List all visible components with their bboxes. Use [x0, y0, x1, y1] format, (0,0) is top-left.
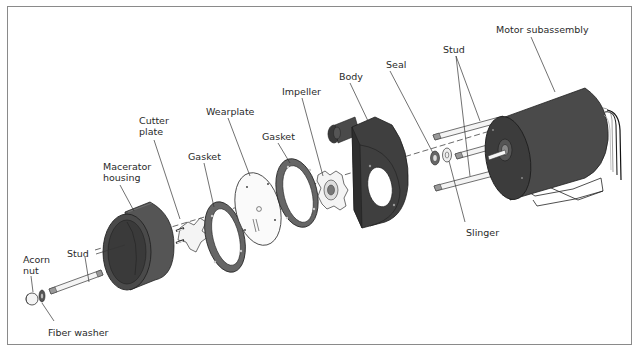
label-body: Body — [339, 71, 363, 82]
seal-part — [431, 151, 440, 165]
label-macerator-housing: Macerator housing — [103, 161, 151, 183]
label-gasket-left: Gasket — [188, 151, 221, 162]
label-impeller: Impeller — [282, 86, 321, 97]
label-cutter-plate: Cutter plate — [139, 115, 169, 137]
fiber-washer-part — [39, 290, 45, 302]
impeller-part — [317, 171, 348, 210]
label-wearplate: Wearplate — [206, 106, 254, 117]
label-gasket-right: Gasket — [262, 131, 295, 142]
body-part — [328, 117, 408, 228]
label-stud-left: Stud — [67, 248, 89, 259]
label-motor-subassembly: Motor subassembly — [496, 24, 589, 35]
label-acorn-nut: Acorn nut — [23, 254, 50, 276]
label-seal: Seal — [386, 59, 406, 70]
macerator-housing-part — [103, 202, 174, 290]
cutter-plate-part — [176, 218, 209, 252]
label-stud-top: Stud — [443, 44, 465, 55]
stud-left-part — [49, 270, 103, 294]
label-fiber-washer: Fiber washer — [48, 327, 109, 338]
exploded-diagram — [0, 0, 641, 360]
acorn-nut-part — [26, 293, 38, 305]
label-slinger: Slinger — [466, 227, 499, 238]
slinger-part — [443, 148, 452, 162]
motor-subassembly-part — [479, 88, 621, 206]
